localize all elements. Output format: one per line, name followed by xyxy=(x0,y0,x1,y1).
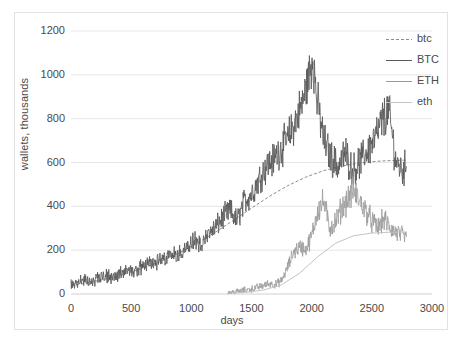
y-axis-title: wallets, thousands xyxy=(18,54,30,194)
series-line-BTC xyxy=(71,56,406,289)
series-lines xyxy=(71,56,407,294)
legend-label-BTC: BTC xyxy=(417,54,439,65)
x-tick-label: 1000 xyxy=(161,303,221,314)
legend-item-eth[interactable]: eth xyxy=(386,91,448,112)
legend-label-btc: btc xyxy=(417,33,432,44)
legend-swatch-ETH xyxy=(386,76,412,86)
series-line-ETH xyxy=(227,176,406,294)
legend-swatch-BTC xyxy=(386,55,412,65)
x-tick-label: 0 xyxy=(41,303,101,314)
chart-legend: btc BTC ETH eth xyxy=(386,28,448,112)
legend-item-BTC[interactable]: BTC xyxy=(386,49,448,70)
x-tick-label: 1500 xyxy=(222,303,282,314)
gridlines xyxy=(71,31,432,294)
x-tick-label: 500 xyxy=(101,303,161,314)
y-tick-label: 1200 xyxy=(19,25,65,36)
legend-item-btc[interactable]: btc xyxy=(386,28,448,49)
x-tick-label: 3000 xyxy=(402,303,462,314)
chart-container: 020040060080010001200 050010001500200025… xyxy=(0,0,464,349)
x-tick-label: 2500 xyxy=(342,303,402,314)
legend-label-ETH: ETH xyxy=(417,75,439,86)
legend-swatch-btc xyxy=(386,34,412,44)
legend-label-eth: eth xyxy=(417,96,432,107)
y-tick-label: 200 xyxy=(19,244,65,255)
legend-item-ETH[interactable]: ETH xyxy=(386,70,448,91)
series-line-eth xyxy=(227,232,406,293)
x-axis-title: days xyxy=(0,314,464,326)
y-tick-label: 400 xyxy=(19,200,65,211)
legend-swatch-eth xyxy=(386,97,412,107)
y-tick-label: 0 xyxy=(19,288,65,299)
x-tick-label: 2000 xyxy=(282,303,342,314)
